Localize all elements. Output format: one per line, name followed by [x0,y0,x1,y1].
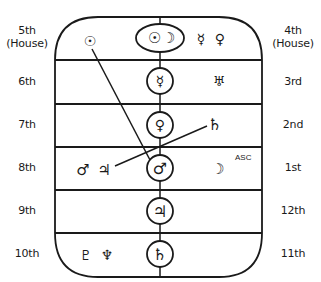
mars-icon: ♂ [76,161,89,179]
mars-icon: ♂ [153,159,167,178]
saturn-icon: ♄ [208,115,222,134]
moon-icon: ☽ [211,160,224,178]
aspect-lines [92,49,207,166]
pluto-icon: ♇ [80,247,93,263]
mercury-icon: ☿ [197,31,206,47]
venus-icon: ♀ [155,117,165,133]
sun-icon: ☉ [148,29,161,47]
venus-icon: ♀ [215,31,225,47]
uranus-icon: ♅ [213,73,226,89]
jupiter-icon: ♃ [153,202,167,221]
house-diagram: ☉ ☽ ☿ ♀ ♂ ♃ ♄ ☉ ♂ ♃ ♇ ♆ ☿ ♀ ♅ ♄ ☽ ASC [0,0,321,282]
mercury-icon: ☿ [156,73,165,89]
saturn-icon: ♄ [153,245,167,264]
neptune-icon: ♆ [101,247,114,263]
moon-icon: ☽ [162,29,175,47]
sun-icon: ☉ [84,33,97,49]
jupiter-icon: ♃ [97,161,110,179]
ascendant-label: ASC [235,153,252,162]
